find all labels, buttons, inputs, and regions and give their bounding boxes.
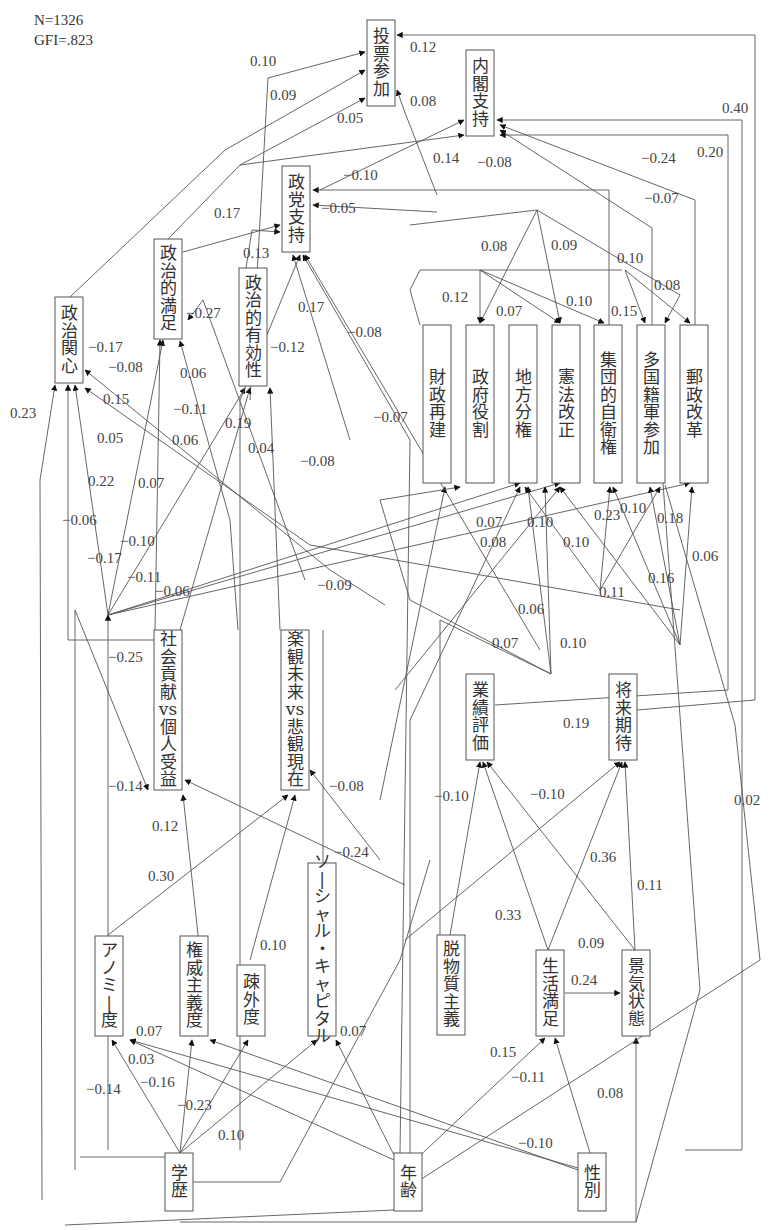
path-coefficient: −0.17 [88, 339, 123, 355]
variable-box-selfdef: 集団的自衛権 [594, 325, 622, 483]
path-coefficient: 0.30 [148, 868, 174, 884]
path-coefficient: 0.14 [433, 150, 460, 166]
path-coefficient: −0.14 [86, 1081, 121, 1097]
path-coefficient: 0.22 [88, 473, 114, 489]
path-coefficient: −0.25 [108, 649, 143, 665]
path-coefficient: 0.09 [270, 87, 296, 103]
path-coefficient: 0.13 [243, 245, 269, 261]
path-coefficient: −0.10 [120, 533, 155, 549]
variable-label-char: 態 [628, 1009, 645, 1029]
path-coefficient: 0.11 [599, 584, 625, 600]
path-coefficient: 0.12 [442, 289, 468, 305]
path-coefficient: 0.08 [410, 93, 436, 109]
variable-label-char: 正 [558, 420, 575, 440]
path-coefficient: 0.08 [481, 238, 507, 254]
variable-box-govrole: 政府役割 [466, 325, 494, 483]
path-coefficient: 0.10 [620, 500, 646, 516]
path-coefficient: 0.07 [492, 635, 519, 651]
path-coefficient: −0.06 [155, 583, 190, 599]
variable-label-char: 益 [160, 769, 177, 789]
path-coefficient: 0.09 [578, 935, 604, 951]
variable-box-social: 社会貢献vs個人受益 [154, 629, 182, 790]
variable-label-char: 足 [542, 1009, 559, 1029]
path-coefficient: 0.04 [248, 440, 275, 456]
path-coefficient: 0.06 [172, 432, 199, 448]
variable-box-party: 政党支持 [282, 166, 310, 252]
path-coefficient: −0.16 [140, 1074, 175, 1090]
variable-label-char: 度 [186, 1010, 203, 1030]
variable-box-vote: 投票参加 [367, 20, 395, 106]
variable-box-age: 年齢 [394, 1153, 422, 1211]
variable-box-const: 憲法改正 [552, 325, 580, 483]
path-coefficient: −0.23 [177, 1097, 212, 1113]
path-coefficient: 0.03 [128, 1051, 154, 1067]
variable-label-char: 歴 [171, 1180, 188, 1200]
path-coefficient: 0.17 [214, 205, 241, 221]
variable-box-pol_eff: 政治的有効性 [239, 268, 267, 386]
path-coefficient: −0.17 [87, 550, 122, 566]
variable-box-pol_int: 政治関心 [55, 297, 83, 383]
path-coefficient: 0.09 [551, 237, 577, 253]
path-coefficient: −0.08 [347, 324, 382, 340]
path-coefficient: −0.24 [334, 844, 369, 860]
path-coefficient: 0.40 [722, 100, 748, 116]
path-arrows [40, 35, 760, 1225]
path-coefficient: 0.10 [566, 293, 592, 309]
variable-box-econ: 景気状態 [622, 950, 650, 1036]
path-coefficient: 0.10 [563, 534, 589, 550]
variable-label-char: 割 [472, 420, 489, 440]
variable-label-char: 心 [61, 356, 78, 376]
path-coefficient: −0.10 [518, 1135, 553, 1151]
path-coefficient: 0.06 [518, 601, 545, 617]
path-coefficient: 0.23 [594, 507, 620, 523]
variable-label-char: 度 [243, 1007, 260, 1027]
variable-label-char: 価 [472, 733, 489, 753]
path-coefficient: 0.12 [152, 818, 178, 834]
variable-box-perf: 業績評価 [466, 674, 494, 760]
path-coefficient: −0.10 [530, 786, 565, 802]
path-coefficient: 0.15 [611, 303, 637, 319]
variable-box-pol_sat: 政治的満足 [154, 239, 182, 339]
path-coefficient: 0.08 [480, 534, 506, 550]
path-coefficient: 0.15 [490, 1044, 516, 1060]
path-coefficient: 0.08 [597, 1085, 623, 1101]
variable-label-char: ル [314, 1026, 331, 1046]
path-coefficient: 0.06 [692, 548, 719, 564]
path-coefficient: −0.10 [343, 167, 378, 183]
variable-label-char: 建 [429, 420, 446, 440]
path-coefficient: 0.05 [97, 430, 123, 446]
path-coefficient: 0.10 [260, 937, 286, 953]
variable-label-char: 性 [245, 360, 262, 380]
path-coefficient: 0.18 [657, 510, 683, 526]
path-coefficient: −0.14 [108, 778, 143, 794]
variable-box-optim: 楽観未来vs悲観現在 [281, 629, 309, 790]
path-coefficient: 0.10 [527, 514, 553, 530]
variable-box-decent: 地方分権 [509, 325, 537, 483]
variable-box-fiscal: 財政再建 [423, 325, 451, 483]
path-coefficient: −0.10 [434, 788, 469, 804]
path-diagram: 投票参加内閣支持政党支持政治的満足政治的有効性政治関心財政再建政府役割地方分権憲… [0, 0, 772, 1230]
variable-label-char: 度 [101, 1010, 118, 1030]
path-coefficient: 0.12 [410, 39, 436, 55]
variable-label-char: 義 [443, 1009, 460, 1029]
path-coefficient: 0.07 [476, 514, 503, 530]
variable-box-postal: 郵政改革 [680, 325, 708, 483]
path-coefficient: 0.17 [298, 299, 325, 315]
path-coefficient: −0.08 [300, 453, 335, 469]
variable-box-cabinet: 内閣支持 [466, 50, 494, 136]
variable-label-char: 権 [515, 420, 532, 440]
path-coefficient: −0.07 [373, 409, 408, 425]
path-coefficient: 0.06 [180, 365, 207, 381]
variable-label-char: 待 [615, 733, 632, 753]
path-coefficient: −0.08 [108, 359, 143, 375]
variable-box-postmat: 脱物質主義 [437, 935, 465, 1035]
path-coefficient: −0.08 [329, 778, 364, 794]
variable-box-lifesat: 生活満足 [536, 950, 564, 1036]
path-coefficient: 0.15 [103, 391, 129, 407]
variable-box-expect: 将来期待 [609, 674, 637, 760]
path-coefficient: 0.33 [495, 907, 521, 923]
path-coefficient: 0.02 [734, 792, 760, 808]
variable-label-char: 足 [160, 313, 177, 333]
path-coefficient: 0.11 [637, 877, 663, 893]
path-coefficient: 0.19 [225, 415, 251, 431]
